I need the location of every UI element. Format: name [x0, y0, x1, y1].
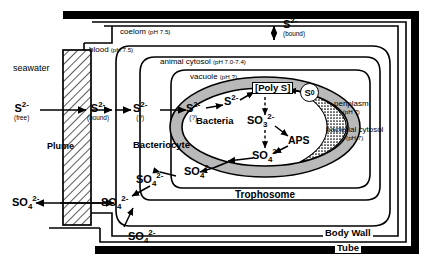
species-sulfate-bodywall: SO42- [128, 229, 155, 245]
arrow-sulfate-from-bodywall [124, 208, 133, 227]
label-tube: Tube [335, 243, 361, 253]
species-sulfide-cytosol: S2- (?) [133, 101, 147, 121]
label-coelom: coelom (pH 7.5) [120, 28, 170, 36]
label-bacteriocyte: Bacteriocyte [133, 140, 190, 150]
species-elemental-s: S0 [300, 83, 319, 102]
label-periplasm: periplasm (pH ?) [334, 100, 369, 115]
label-body-wall: Body Wall [323, 228, 373, 238]
label-bacteria: Bacteria [196, 116, 234, 126]
label-trophosome: Trophosome [235, 190, 295, 200]
species-sulfide-vacuole: S2- (?) [186, 101, 200, 121]
label-plume: Plume [47, 142, 74, 151]
label-animal-cytosol: animal cytosol (pH 7.0-7.4) [160, 58, 246, 66]
species-sulfite: SO32- [247, 113, 274, 129]
diagram-canvas: seawater Plume blood (pH 7.5) coelom (pH… [0, 0, 433, 267]
label-bacterial-cytosol: bacterial cytosol (pH 7) [326, 126, 383, 141]
species-sulfate-seawater: SO42- [12, 195, 39, 211]
species-sulfate-blood: SO42- [101, 195, 128, 211]
species-aps: APS [288, 135, 310, 146]
label-seawater: seawater [13, 64, 50, 73]
label-vacuole: vacuole (pH ?) [190, 73, 237, 81]
label-blood: blood (pH 7.5) [89, 46, 133, 54]
species-poly-s: [Poly S] [252, 82, 293, 94]
species-sulfide-free: S2- (free) [14, 101, 29, 121]
species-sulfate-cytosol-left: SO42- [136, 172, 163, 188]
species-sulfide-bacteria: S2- [224, 94, 238, 107]
species-sulfate-bacteria: SO42- [252, 148, 279, 164]
species-sulfide-bound-blood: S2- (bound) [87, 101, 109, 121]
species-sulfate-cytosol-right: SO42- [184, 164, 211, 180]
plume-box [63, 50, 91, 225]
species-sulfide-bound-coelom: S2- (bound) [283, 17, 305, 37]
